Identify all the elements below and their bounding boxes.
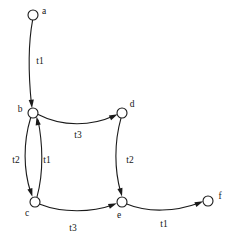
node-e[interactable] xyxy=(117,197,127,207)
node-label-c: c xyxy=(25,208,29,218)
edge-a-b xyxy=(29,20,32,104)
nodes-layer xyxy=(28,10,213,207)
edge-label-b-d: t3 xyxy=(74,130,82,140)
node-d[interactable] xyxy=(117,108,127,118)
arrowhead-c-b xyxy=(36,117,41,126)
edge-label-c-e: t3 xyxy=(69,223,77,233)
graph-canvas: t1t3t2t1t2t3t1 abcdef xyxy=(0,0,237,244)
node-f[interactable] xyxy=(203,196,213,206)
graph-diagram: t1t3t2t1t2t3t1 abcdef xyxy=(0,0,237,244)
edge-c-b xyxy=(37,120,42,197)
node-c[interactable] xyxy=(30,197,40,207)
arrowhead-b-d xyxy=(109,114,118,120)
arrowhead-a-b xyxy=(29,100,34,109)
edge-e-f xyxy=(127,203,199,210)
arrowhead-c-e xyxy=(108,203,117,209)
node-a[interactable] xyxy=(28,10,38,20)
arrowheads-layer xyxy=(27,100,203,209)
edge-label-c-b: t1 xyxy=(43,155,51,165)
node-b[interactable] xyxy=(28,108,38,118)
node-label-f: f xyxy=(218,191,222,201)
node-label-a: a xyxy=(42,6,47,16)
node-label-e: e xyxy=(117,210,121,220)
edge-d-e xyxy=(116,118,121,192)
edge-label-e-f: t1 xyxy=(160,219,168,229)
arrowhead-b-c xyxy=(27,188,32,197)
edge-label-b-c: t2 xyxy=(12,155,20,165)
edge-b-c xyxy=(25,118,31,192)
edge-c-e xyxy=(40,204,113,211)
edge-label-d-e: t2 xyxy=(126,155,134,165)
node-label-d: d xyxy=(130,99,135,109)
arrowhead-e-f xyxy=(194,201,203,207)
arrowhead-d-e xyxy=(117,188,122,197)
edge-label-a-b: t1 xyxy=(36,56,44,66)
node-label-b: b xyxy=(18,104,23,114)
edge-b-d xyxy=(38,115,113,124)
